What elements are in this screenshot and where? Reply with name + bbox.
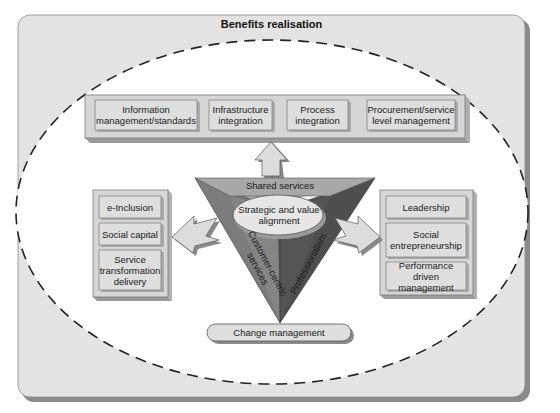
- top-box-2-line1: Infrastructure: [213, 104, 269, 115]
- right-box-2-line2: entrepreneurship: [390, 240, 462, 251]
- top-box-procurement: Procurement/service level management: [367, 100, 455, 130]
- top-box-3-line2: integration: [295, 115, 339, 126]
- diagram-title: Benefits realisation: [18, 18, 525, 30]
- top-box-3-line1: Process: [300, 104, 334, 115]
- left-box-3-line1: Service: [114, 254, 146, 265]
- left-box-3-line2: transformation: [100, 265, 161, 276]
- left-box-e-inclusion: e-Inclusion: [99, 196, 161, 218]
- left-box-3-line3: delivery: [114, 276, 147, 287]
- top-box-infrastructure-integration: Infrastructure integration: [209, 100, 272, 130]
- top-box-information-management: Information management/standards: [95, 100, 197, 130]
- right-box-social-entrepreneurship: Social entrepreneurship: [386, 223, 466, 257]
- left-box-2-label: Social capital: [102, 229, 158, 240]
- right-box-leadership: Leadership: [386, 196, 466, 218]
- right-box-performance-driven: Performance driven management: [386, 262, 466, 290]
- change-management-text: Change management: [233, 327, 324, 338]
- left-box-1-label: e-Inclusion: [107, 202, 153, 213]
- right-box-1-label: Leadership: [402, 202, 449, 213]
- top-box-1-line1: Information: [122, 104, 170, 115]
- top-box-2-line2: integration: [218, 115, 262, 126]
- strategic-line1: Strategic and value: [238, 204, 319, 215]
- left-box-social-capital: Social capital: [99, 223, 161, 245]
- shared-services-label: Shared services: [230, 179, 330, 192]
- right-box-2-line1: Social: [413, 229, 439, 240]
- top-box-4-line1: Procurement/service: [367, 104, 454, 115]
- strategic-line2: alignment: [258, 215, 299, 226]
- top-box-4-line2: level management: [372, 115, 450, 126]
- right-box-3-line2: management: [398, 282, 453, 293]
- right-box-3-line1: Performance driven: [386, 260, 466, 282]
- change-management-label: Change management: [207, 324, 351, 341]
- top-box-process-integration: Process integration: [287, 100, 348, 130]
- left-box-service-transformation: Service transformation delivery: [99, 250, 161, 290]
- shared-services-text: Shared services: [246, 180, 314, 191]
- top-box-1-line2: management/standards: [96, 115, 196, 126]
